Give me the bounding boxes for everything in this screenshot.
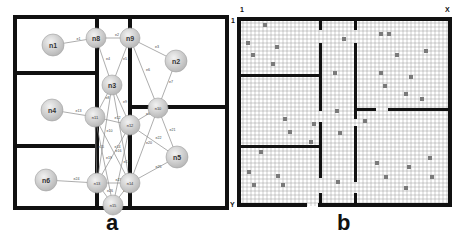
occupied-cell bbox=[336, 180, 340, 184]
wall bbox=[319, 122, 322, 178]
wall bbox=[388, 108, 452, 111]
occupied-cell bbox=[387, 32, 391, 36]
wall bbox=[318, 203, 452, 207]
occupied-cell bbox=[383, 84, 387, 88]
occupied-cell bbox=[275, 45, 279, 49]
occupied-cell bbox=[288, 130, 292, 134]
wall bbox=[354, 17, 357, 30]
y-max-label: Y bbox=[230, 201, 235, 208]
wall bbox=[319, 17, 322, 30]
occupied-cell bbox=[407, 165, 411, 169]
wall bbox=[354, 108, 376, 111]
wall bbox=[354, 193, 357, 206]
x-max-label: X bbox=[445, 6, 450, 13]
occupied-cell bbox=[428, 156, 432, 160]
panel-b-occupancy-grid: 1 1 X Y b bbox=[0, 0, 463, 246]
occupied-cell bbox=[335, 109, 339, 113]
occupied-cell bbox=[384, 175, 388, 179]
panel-b-caption: b bbox=[337, 210, 350, 236]
occupied-cell bbox=[309, 140, 313, 144]
occupied-cell bbox=[404, 186, 408, 190]
occupied-cell bbox=[424, 49, 428, 53]
wall bbox=[319, 193, 322, 206]
occupied-cell bbox=[404, 92, 408, 96]
wall bbox=[237, 203, 307, 207]
occupied-cell bbox=[430, 175, 434, 179]
wall bbox=[237, 17, 452, 21]
occupied-cell bbox=[251, 53, 255, 57]
wall bbox=[354, 43, 357, 119]
occupied-cell bbox=[259, 150, 263, 154]
occupied-cell bbox=[395, 53, 399, 57]
wall bbox=[354, 126, 357, 182]
wall bbox=[237, 145, 321, 148]
occupied-cell bbox=[252, 183, 256, 187]
y-origin-label: 1 bbox=[231, 17, 235, 24]
occupied-cell bbox=[247, 170, 251, 174]
occupied-cell bbox=[276, 174, 280, 178]
occupied-cell bbox=[409, 75, 413, 79]
occupied-cell bbox=[283, 117, 287, 121]
occupied-cell bbox=[379, 71, 383, 75]
occupied-cell bbox=[375, 161, 379, 165]
wall bbox=[448, 17, 452, 207]
occupied-cell bbox=[342, 37, 346, 41]
occupied-cell bbox=[420, 97, 424, 101]
wall bbox=[237, 17, 241, 207]
occupied-cell bbox=[363, 119, 367, 123]
occupied-cell bbox=[281, 183, 285, 187]
occupied-cell bbox=[263, 23, 267, 27]
wall bbox=[237, 74, 321, 77]
grid-map bbox=[0, 0, 463, 246]
occupied-cell bbox=[333, 71, 337, 75]
occupied-cell bbox=[379, 32, 383, 36]
occupied-cell bbox=[246, 41, 250, 45]
x-origin-label: 1 bbox=[240, 6, 244, 13]
occupied-cell bbox=[271, 62, 275, 66]
occupied-cell bbox=[312, 122, 316, 126]
occupied-cell bbox=[338, 131, 342, 135]
